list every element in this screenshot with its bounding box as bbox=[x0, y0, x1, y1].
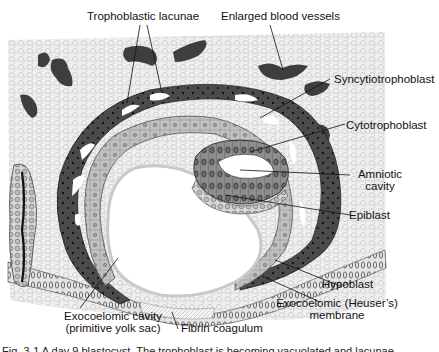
label-exocoelomic-cavity: Exocoelomic cavity (primitive yolk sac) bbox=[58, 310, 168, 334]
label-cytotrophoblast: Cytotrophoblast bbox=[346, 119, 427, 131]
label-fibrin-coagulum: Fibrin coagulum bbox=[181, 322, 263, 334]
label-exocoelomic-cavity-line1: Exocoelomic cavity bbox=[58, 310, 168, 322]
label-enlarged-blood-vessels: Enlarged blood vessels bbox=[221, 10, 340, 22]
figure-caption: Fig. 3-1 A day 9 blastocyst. The trophob… bbox=[2, 345, 394, 352]
label-syncytiotrophoblast: Syncytiotrophoblast bbox=[334, 73, 434, 85]
label-amniotic-cavity-line1: Amniotic bbox=[350, 168, 410, 180]
label-exocoelomic-membrane-line2: membrane bbox=[272, 309, 402, 321]
label-exocoelomic-membrane-line1: Exocoelomic (Heuser’s) bbox=[272, 297, 402, 309]
label-exocoelomic-cavity-line2: (primitive yolk sac) bbox=[58, 322, 168, 334]
label-amniotic-cavity-line2: cavity bbox=[350, 180, 410, 192]
label-amniotic-cavity: Amniotic cavity bbox=[350, 168, 410, 192]
label-trophoblastic-lacunae: Trophoblastic lacunae bbox=[87, 10, 199, 22]
label-exocoelomic-membrane: Exocoelomic (Heuser’s) membrane bbox=[272, 297, 402, 321]
label-epiblast: Epiblast bbox=[349, 209, 390, 221]
label-hypoblast: Hypoblast bbox=[322, 278, 373, 290]
